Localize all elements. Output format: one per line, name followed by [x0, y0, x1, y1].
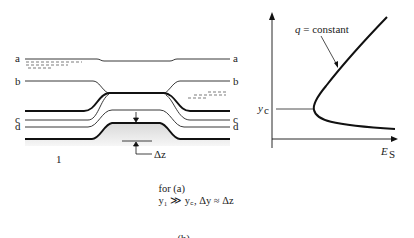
curve-label: q = constant: [295, 23, 349, 35]
arrow-down-icon: [134, 118, 139, 122]
bed-hatch: [25, 123, 230, 146]
right-figure: q = constant y c E S: [257, 12, 398, 160]
profile-critical: [25, 93, 230, 111]
water-ripples-right: [188, 92, 228, 98]
condition-a-prefix: for (a): [159, 183, 186, 194]
pointer-line: [321, 36, 337, 65]
profile-a: [25, 59, 230, 61]
y-axis-arrow-icon: [269, 12, 275, 20]
label-b-right: b: [233, 75, 239, 87]
delta-z-label: Δz: [154, 148, 166, 160]
x-axis-sub: S: [389, 148, 395, 160]
label-a-right: a: [233, 52, 238, 64]
section-label: 1: [56, 153, 62, 165]
conditions-list: for (a) y₁ ≫ y꜀, Δy ≈ Δz (b) y₁ > y꜀, Δy…: [148, 170, 247, 238]
label-d-left: d: [15, 120, 21, 132]
condition-a: for (a) y₁ ≫ y꜀, Δy ≈ Δz: [148, 170, 247, 220]
condition-a-text: y₁ ≫ y꜀, Δy ≈ Δz: [159, 195, 234, 206]
profile-b: [25, 81, 230, 93]
left-figure: a a b b c c d d Δz 1: [15, 52, 239, 165]
yc-sub: c: [264, 104, 269, 116]
label-a-left: a: [15, 52, 20, 64]
x-axis-arrow-icon: [391, 136, 398, 142]
pointer-arrow-icon: [334, 61, 338, 68]
label-b-left: b: [15, 75, 21, 87]
condition-b: (b) y₁ > y꜀, Δy > Δz: [148, 220, 247, 238]
x-axis-label: E: [380, 145, 388, 157]
condition-b-prefix: (b): [178, 233, 190, 238]
label-d-right: d: [233, 120, 239, 132]
water-ripples-left: [26, 62, 82, 68]
yc-label: y: [257, 102, 263, 114]
